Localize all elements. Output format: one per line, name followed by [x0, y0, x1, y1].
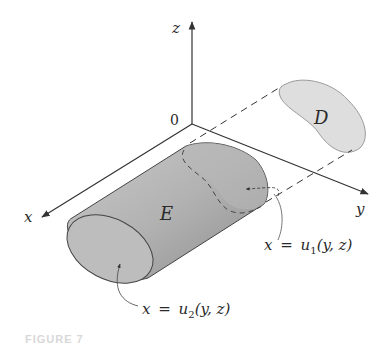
- projection-dashed-line-top: [190, 86, 282, 143]
- x-axis-label: x: [24, 208, 33, 226]
- region-d-label: D: [313, 107, 329, 128]
- solid-e-label: E: [159, 203, 173, 224]
- z-axis-label: z: [171, 19, 180, 37]
- origin-label: 0: [170, 112, 179, 128]
- type-i-solid-region-diagram: z y x 0 D E x = u1(y, z) x = u2(y, z): [0, 0, 390, 344]
- u1-equation: x = u1(y, z): [264, 236, 352, 256]
- u1-leader-line: [274, 194, 282, 240]
- u2-equation: x = u2(y, z): [142, 300, 230, 320]
- y-axis-label: y: [355, 200, 365, 218]
- figure-caption: FIGURE 7: [25, 333, 84, 344]
